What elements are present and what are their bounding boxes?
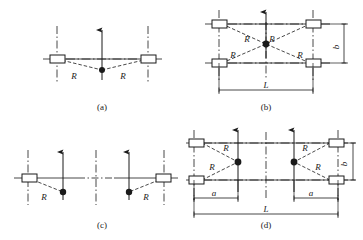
radius-label-R: R bbox=[208, 162, 215, 172]
panel-caption-b: (b) bbox=[261, 102, 272, 112]
conductor-box bbox=[212, 59, 227, 67]
panel-caption-a: (a) bbox=[97, 102, 107, 112]
dimension-label-b: b bbox=[331, 44, 341, 49]
conductor-box bbox=[189, 176, 204, 184]
conductor-box bbox=[156, 174, 171, 182]
panel-caption-d: (d) bbox=[261, 220, 272, 230]
conductor-box bbox=[212, 20, 227, 28]
distance-line-R bbox=[202, 143, 238, 162]
reference-point-dot bbox=[60, 189, 66, 195]
panel-d: R R R R a a L b (d) bbox=[186, 130, 356, 230]
dimension-label-L: L bbox=[262, 204, 268, 214]
radius-label-R: R bbox=[142, 192, 149, 202]
reference-point-dot bbox=[235, 159, 242, 166]
radius-label-R: R bbox=[229, 50, 236, 60]
radius-label-R: R bbox=[70, 71, 77, 81]
distance-line-R bbox=[294, 143, 330, 162]
radius-label-R: R bbox=[314, 162, 321, 172]
reference-point-dot bbox=[291, 159, 298, 166]
conductor-box bbox=[141, 55, 156, 63]
conductor-box bbox=[329, 139, 344, 147]
radius-label-R: R bbox=[296, 50, 303, 60]
conductor-box bbox=[22, 174, 37, 182]
radius-label-R: R bbox=[268, 34, 275, 44]
panel-a: R R (a) bbox=[43, 26, 162, 112]
radius-label-R: R bbox=[222, 143, 229, 153]
radius-label-R: R bbox=[119, 71, 126, 81]
conductor-box bbox=[329, 176, 344, 184]
conductor-box bbox=[50, 55, 65, 63]
radius-label-R: R bbox=[301, 143, 308, 153]
dimension-label-b: b bbox=[339, 161, 349, 166]
distance-line-R bbox=[202, 162, 238, 180]
radius-label-R: R bbox=[40, 192, 47, 202]
conductor-box bbox=[306, 59, 321, 67]
radius-label-R: R bbox=[243, 34, 250, 44]
distance-line-R bbox=[266, 44, 310, 63]
dimension-label-a: a bbox=[309, 188, 314, 198]
dimension-label-a: a bbox=[212, 188, 217, 198]
conductor-box bbox=[306, 20, 321, 28]
panel-b: R R R R L b (b) bbox=[205, 10, 348, 112]
distance-line-R bbox=[222, 44, 266, 63]
reference-point-dot bbox=[126, 189, 132, 195]
dimension-label-L: L bbox=[262, 80, 268, 90]
figure-container: R R (a) bbox=[0, 0, 363, 240]
engineering-diagram-svg: R R (a) bbox=[0, 0, 363, 240]
reference-point-dot bbox=[99, 67, 105, 73]
panel-c: R R (c) bbox=[14, 150, 178, 230]
panel-caption-c: (c) bbox=[97, 220, 107, 230]
conductor-box bbox=[189, 139, 204, 147]
distance-line-R bbox=[294, 162, 330, 180]
